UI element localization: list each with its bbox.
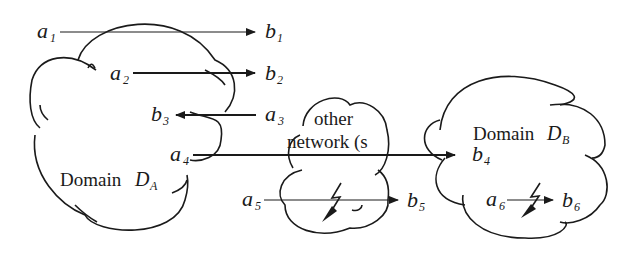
node-a3: a 3: [265, 101, 284, 128]
node-a5: a 5: [242, 186, 261, 213]
domain-a-label: Domain D A: [60, 168, 158, 193]
node-b5: b 5: [407, 187, 425, 214]
diagram-canvas: a 1 b 1 a 2 b 2 b 3 a 3 a 4 b 4 a 5 b 5 …: [0, 0, 633, 253]
node-b3: b 3: [151, 101, 169, 128]
svg-text:D: D: [134, 168, 150, 190]
node-b6: b 6: [562, 187, 580, 214]
domain-b-label: Domain D B: [473, 122, 570, 147]
svg-text:2: 2: [277, 73, 283, 87]
svg-text:3: 3: [277, 114, 284, 128]
svg-text:a: a: [486, 186, 497, 211]
svg-text:3: 3: [162, 114, 169, 128]
svg-text:1: 1: [277, 31, 283, 45]
node-a2: a 2: [110, 60, 129, 87]
svg-text:a: a: [110, 60, 121, 85]
svg-text:a: a: [242, 186, 253, 211]
svg-text:6: 6: [574, 200, 580, 214]
svg-text:b: b: [562, 187, 573, 212]
node-a1: a 1: [37, 18, 56, 45]
node-a4: a 4: [170, 141, 189, 168]
node-b2: b 2: [265, 60, 283, 87]
svg-text:D: D: [546, 122, 562, 144]
svg-text:5: 5: [419, 200, 425, 214]
svg-text:6: 6: [499, 199, 505, 213]
node-a6: a 6: [486, 186, 505, 213]
svg-text:b: b: [265, 18, 276, 43]
node-b1: b 1: [265, 18, 283, 45]
svg-text:Domain: Domain: [473, 123, 535, 144]
lightning-bolt-icon: [322, 183, 341, 222]
svg-text:b: b: [472, 141, 483, 166]
svg-text:Domain: Domain: [60, 169, 122, 190]
node-b4: b 4: [472, 141, 490, 168]
svg-text:a: a: [170, 141, 181, 166]
svg-text:2: 2: [123, 73, 129, 87]
svg-text:a: a: [37, 18, 48, 43]
svg-text:a: a: [265, 101, 276, 126]
svg-text:4: 4: [484, 154, 490, 168]
svg-text:b: b: [151, 101, 162, 126]
other-network-label: other network (s: [287, 108, 368, 153]
svg-text:other: other: [314, 108, 354, 129]
svg-text:b: b: [265, 60, 276, 85]
svg-text:b: b: [407, 187, 418, 212]
svg-text:4: 4: [183, 154, 189, 168]
svg-text:network (s: network (s: [287, 131, 368, 153]
svg-text:A: A: [149, 179, 158, 193]
svg-text:1: 1: [50, 31, 56, 45]
domain-a-cloud: [30, 24, 235, 230]
svg-text:B: B: [562, 133, 570, 147]
svg-text:5: 5: [255, 199, 261, 213]
